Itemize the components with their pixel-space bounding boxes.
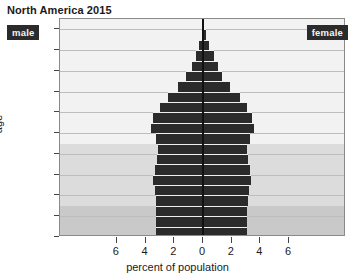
bar-male-50-54: [151, 123, 203, 133]
bar-male-20-24: [155, 185, 203, 195]
y-tick-mark-100: [54, 28, 59, 29]
bar-female-5-9: [203, 216, 247, 226]
bar-female-20-24: [203, 185, 249, 195]
bar-female-35-39: [203, 154, 248, 164]
x-tick-mark-1: [145, 237, 146, 243]
bar-female-30-34: [203, 164, 250, 174]
bar-male-40-44: [158, 144, 203, 154]
bar-female-70-74: [203, 81, 230, 91]
bar-female-60-64: [203, 102, 247, 112]
y-tick-mark-90: [54, 49, 59, 50]
bar-male-30-34: [155, 164, 203, 174]
x-tick-label-6: 6: [285, 245, 291, 257]
bar-female-10-14: [203, 206, 247, 216]
x-axis-title: percent of population: [0, 261, 355, 273]
bar-male-0-4: [156, 227, 203, 236]
x-tick-label-3: 0: [199, 245, 205, 257]
bar-female-50-54: [203, 123, 254, 133]
bar-female-75-79: [203, 71, 222, 81]
bar-female-80-84: [203, 61, 218, 71]
x-tick-mark-4: [231, 237, 232, 243]
x-tick-label-2: 2: [170, 245, 176, 257]
y-tick-mark-30: [54, 174, 59, 175]
bar-male-60-64: [160, 102, 203, 112]
x-tick-mark-3: [202, 237, 203, 243]
bar-male-45-49: [156, 133, 203, 143]
bar-female-85-89: [203, 50, 214, 60]
y-tick-mark-20: [54, 194, 59, 195]
x-tick-mark-2: [173, 237, 174, 243]
bar-female-40-44: [203, 144, 247, 154]
bar-male-65-69: [168, 92, 203, 102]
x-tick-mark-5: [259, 237, 260, 243]
bar-male-35-39: [157, 154, 203, 164]
bar-male-25-29: [153, 175, 203, 185]
bar-female-25-29: [203, 175, 251, 185]
y-tick-mark-80: [54, 70, 59, 71]
bar-female-65-69: [203, 92, 240, 102]
x-tick-label-0: 6: [113, 245, 119, 257]
bar-male-55-59: [153, 112, 203, 122]
bar-male-75-79: [186, 71, 203, 81]
center-axis-line: [202, 19, 204, 235]
bar-female-90-94: [203, 40, 209, 50]
y-axis-title: age: [0, 115, 4, 133]
y-tick-mark-50: [54, 132, 59, 133]
bar-male-15-19: [156, 195, 203, 205]
y-tick-mark-0: [54, 236, 59, 237]
population-pyramid-figure: age North America 2015 male female 01020…: [0, 0, 355, 280]
y-tick-mark-70: [54, 91, 59, 92]
y-tick-mark-40: [54, 153, 59, 154]
x-tick-label-1: 4: [142, 245, 148, 257]
legend-badge-male: male: [7, 25, 39, 40]
y-tick-mark-60: [54, 111, 59, 112]
legend-badge-female: female: [307, 25, 348, 40]
y-tick-mark-10: [54, 215, 59, 216]
x-tick-mark-6: [288, 237, 289, 243]
chart-title: North America 2015: [7, 4, 112, 16]
x-tick-label-5: 4: [256, 245, 262, 257]
bar-female-0-4: [203, 227, 247, 236]
x-tick-label-4: 2: [228, 245, 234, 257]
plot-area: [59, 18, 345, 236]
bar-male-10-14: [156, 206, 203, 216]
bar-male-70-74: [178, 81, 203, 91]
bar-female-55-59: [203, 112, 252, 122]
bar-female-15-19: [203, 195, 248, 205]
bar-male-5-9: [156, 216, 203, 226]
bar-female-45-49: [203, 133, 250, 143]
x-tick-mark-0: [116, 237, 117, 243]
